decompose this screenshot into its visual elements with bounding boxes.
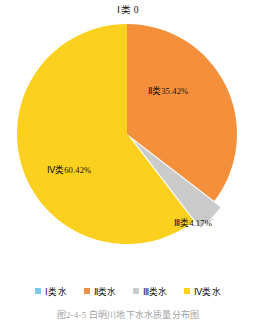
pie-chart-svg xyxy=(0,0,256,272)
figure-caption: 图2-4-5 白明川地下水水质量分布图 xyxy=(0,308,256,323)
pie-label-class-4: Ⅳ类60.42% xyxy=(47,163,91,175)
legend-label: Ⅰ类水 xyxy=(45,285,66,297)
legend-item-class-3[interactable]: Ⅲ类水 xyxy=(133,285,167,297)
legend-item-class-1[interactable]: Ⅰ类水 xyxy=(35,285,66,297)
legend-item-class-4[interactable]: Ⅳ类水 xyxy=(184,285,220,297)
chart-legend: Ⅰ类水 Ⅱ类水 Ⅲ类水 Ⅳ类水 xyxy=(0,282,256,300)
legend-swatch-icon xyxy=(84,288,90,294)
pie-label-class-2: Ⅱ类35.42% xyxy=(148,84,188,96)
legend-swatch-icon xyxy=(133,288,139,294)
legend-swatch-icon xyxy=(35,288,41,294)
legend-item-class-2[interactable]: Ⅱ类水 xyxy=(84,285,116,297)
legend-label: Ⅲ类水 xyxy=(143,285,167,297)
pie-label-class-3: Ⅲ类4.17% xyxy=(174,216,212,228)
legend-label: Ⅳ类水 xyxy=(194,285,220,297)
legend-swatch-icon xyxy=(184,288,190,294)
legend-label: Ⅱ类水 xyxy=(94,285,116,297)
pie-chart-figure: Ⅰ类 0 Ⅱ类35.42% Ⅳ类60.42% Ⅲ类4.17% Ⅰ类水 Ⅱ类水 Ⅲ… xyxy=(0,0,256,323)
